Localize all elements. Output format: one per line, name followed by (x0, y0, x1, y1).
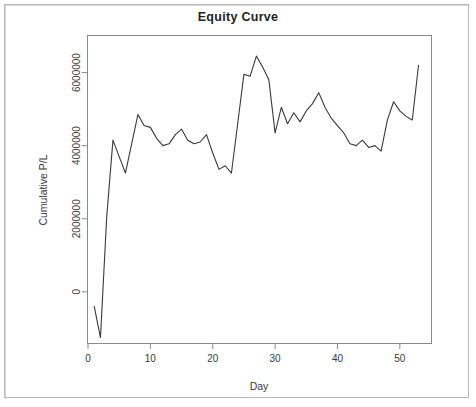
x-tick-label: 30 (270, 353, 282, 364)
x-tick-label: 20 (207, 353, 219, 364)
y-tick-label: 6000000 (71, 53, 82, 92)
y-tick-label: 4000000 (71, 126, 82, 165)
chart-figure: Equity Curve 0200000040000006000000 0102… (0, 0, 476, 407)
y-axis-ticks: 0200000040000006000000 (71, 53, 88, 295)
x-tick-label: 0 (85, 353, 91, 364)
x-axis-ticks: 01020304050 (85, 343, 406, 364)
plot-border (88, 36, 432, 344)
x-axis-title: Day (250, 380, 269, 392)
y-tick-label: 2000000 (71, 199, 82, 238)
y-axis-title: Cumulative P/L (37, 154, 49, 225)
x-tick-label: 50 (394, 353, 406, 364)
y-tick-label: 0 (71, 289, 82, 295)
x-tick-label: 10 (145, 353, 157, 364)
x-tick-label: 40 (332, 353, 344, 364)
plot-area: 0200000040000006000000 01020304050 Day C… (0, 0, 476, 407)
